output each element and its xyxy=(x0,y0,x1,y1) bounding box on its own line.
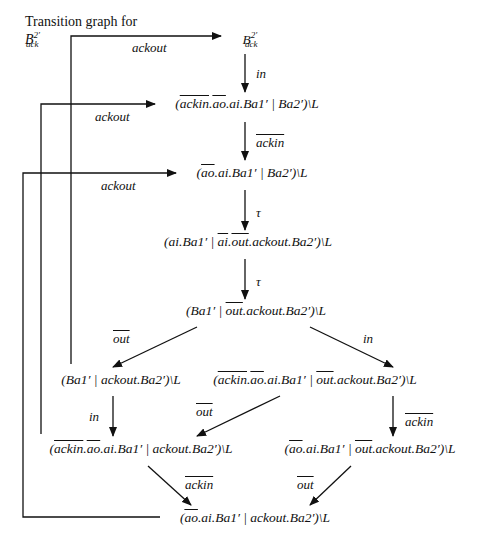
graph-canvas xyxy=(0,0,482,547)
edge-n9-n2 xyxy=(23,173,176,517)
edge-label-n4-n5: out xyxy=(113,331,130,347)
node-n0: B2′ack xyxy=(242,30,257,49)
edge-label-n1-n2: ackin xyxy=(256,135,284,151)
edge-label-n2-n3: τ xyxy=(256,205,261,221)
edge-label-n7-n9: ackin xyxy=(185,477,213,493)
node-n8: (ao.ai.Ba1′ | out.ackout.Ba2′)\L xyxy=(285,441,456,457)
edge-label-n8-n9: out xyxy=(297,477,314,493)
edge-label-n6-n7: out xyxy=(196,404,213,420)
edge-label-n9-n2: ackout xyxy=(101,178,136,194)
edge-label-n0-n1: in xyxy=(256,66,266,82)
edge-label-n5-n7: in xyxy=(89,409,99,425)
node-n3: (ai.Ba1′ | ai.out.ackout.Ba2′)\L xyxy=(164,234,332,250)
edge-label-n4-n6: in xyxy=(363,331,373,347)
node-n7: (ackin.ao.ai.Ba1′ | ackout.Ba2′)\L xyxy=(50,441,233,457)
node-n2: (ao.ai.Ba1′ | Ba2′)\L xyxy=(197,165,308,181)
node-n4: (Ba1′ | out.ackout.Ba2′)\L xyxy=(186,303,326,319)
edge-label-n6-n8: ackin xyxy=(405,414,433,430)
node-n1: (ackin.ao.ai.Ba1′ | Ba2′)\L xyxy=(175,96,319,112)
edge-label-n7-n1: ackout xyxy=(95,109,130,125)
node-n9: (ao.ai.Ba1′ | ackout.Ba2′)\L xyxy=(180,510,330,526)
node-n6: (ackin.ao.ai.Ba1′ | out.ackout.Ba2′)\L xyxy=(213,372,417,388)
edge-label-n5-n0: ackout xyxy=(132,40,167,56)
edge-n8-n9 xyxy=(310,466,351,505)
edge-label-n3-n4: τ xyxy=(256,274,261,290)
edge-n4-n6 xyxy=(310,327,393,367)
node-n5: (Ba1′ | ackout.Ba2′)\L xyxy=(61,372,180,388)
